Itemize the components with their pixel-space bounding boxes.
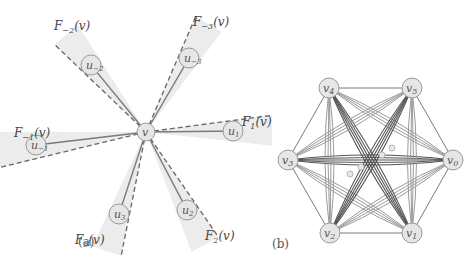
caption-b: (b) xyxy=(272,237,289,251)
cone-label-u1: F1(v) xyxy=(241,115,272,131)
crossing-node xyxy=(379,152,385,158)
crossing-node xyxy=(358,164,364,170)
crossing-node xyxy=(347,171,353,177)
cone-region xyxy=(146,17,222,132)
graph-edges xyxy=(288,88,453,233)
svg-text:v: v xyxy=(142,126,149,139)
cone-label-u-1: F−1(v) xyxy=(13,126,51,142)
cone-label-u-2: F−2(v) xyxy=(53,19,91,35)
vertex-v1: v1 xyxy=(402,223,422,243)
vertex-v2: v2 xyxy=(320,223,340,243)
caption-a: (a) xyxy=(78,235,95,249)
node-u-2: u−2 xyxy=(81,55,104,75)
cone-label-u2: F2(v) xyxy=(204,229,235,245)
cone-label-u-3: F−3(v) xyxy=(192,15,230,31)
node-u2: u2 xyxy=(177,200,197,220)
panel-b-complete-graph: v0v1v2v3v4v5 (b) xyxy=(272,78,463,251)
panel-a-star-cones: u1u2u3u−1u−2u−3v F1(v)F2(v)F3(v)F−1(v)F−… xyxy=(0,15,272,256)
crossing-node xyxy=(389,145,395,151)
vertex-v0: v0 xyxy=(443,150,463,170)
node-u3: u3 xyxy=(109,204,129,224)
vertex-v5: v5 xyxy=(402,78,422,98)
vertex-v3: v3 xyxy=(278,150,298,170)
center-node-v: v xyxy=(137,123,155,141)
figure: u1u2u3u−1u−2u−3v F1(v)F2(v)F3(v)F−1(v)F−… xyxy=(0,0,474,265)
vertex-v4: v4 xyxy=(319,78,339,98)
node-u1: u1 xyxy=(223,121,243,141)
